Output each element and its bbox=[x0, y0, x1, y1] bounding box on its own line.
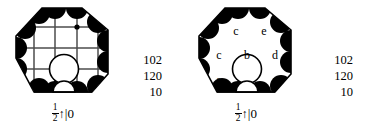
one-half-fraction-right: 1 2 bbox=[235, 103, 242, 123]
bar-zero-label: |0 bbox=[65, 106, 75, 121]
number-value: 10 bbox=[122, 84, 162, 100]
number-value: 102 bbox=[122, 52, 162, 68]
bar-zero-label: |0 bbox=[248, 106, 258, 121]
marked-site-dot-left bbox=[74, 24, 79, 29]
site-label: c bbox=[233, 24, 238, 38]
site-label: e bbox=[261, 24, 266, 38]
site-label: d bbox=[272, 48, 278, 62]
fraction-numerator: 1 bbox=[235, 103, 242, 114]
octagon-svg-right: c e c b d a a bbox=[191, 2, 301, 104]
panel-left: 1 2 ↑|0 102 120 10 bbox=[0, 0, 184, 132]
site-label: c bbox=[216, 48, 221, 62]
number-value: 120 bbox=[122, 68, 162, 84]
site-label: a bbox=[216, 73, 222, 87]
number-value: 10 bbox=[313, 84, 353, 100]
number-value: 120 bbox=[313, 68, 353, 84]
octagon-diagram-right: c e c b d a a bbox=[191, 2, 301, 104]
one-half-fraction-left: 1 2 bbox=[52, 103, 59, 123]
numbers-column-left: 102 120 10 bbox=[122, 52, 162, 100]
fraction-denominator: 2 bbox=[235, 114, 242, 124]
center-vacancy-left bbox=[50, 55, 79, 84]
site-label: b bbox=[244, 48, 250, 62]
octagon-diagram-left bbox=[8, 2, 118, 104]
panel-right: c e c b d a a 1 2 ↑|0 102 120 10 bbox=[183, 0, 367, 132]
caption-right: 1 2 ↑|0 bbox=[191, 103, 301, 123]
numbers-column-right: 102 120 10 bbox=[313, 52, 353, 100]
site-label: a bbox=[272, 73, 278, 87]
fraction-denominator: 2 bbox=[52, 114, 59, 124]
number-value: 102 bbox=[313, 52, 353, 68]
figure-root: 1 2 ↑|0 102 120 10 bbox=[0, 0, 367, 132]
octagon-svg-left bbox=[8, 2, 118, 104]
fraction-numerator: 1 bbox=[52, 103, 59, 114]
caption-left: 1 2 ↑|0 bbox=[8, 103, 118, 123]
